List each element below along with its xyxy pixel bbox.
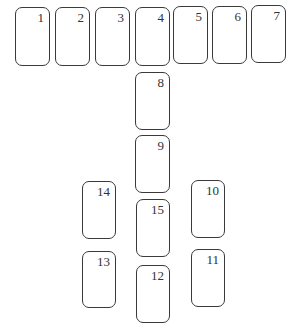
- card-10: 10: [191, 180, 225, 238]
- card-14: 14: [82, 181, 116, 239]
- card-number: 6: [235, 10, 242, 23]
- card-number: 9: [158, 139, 165, 152]
- card-1: 1: [15, 7, 50, 66]
- card-number: 13: [97, 255, 110, 268]
- card-7: 7: [251, 5, 286, 63]
- card-number: 10: [206, 184, 219, 197]
- card-number: 12: [151, 269, 164, 282]
- card-12: 12: [136, 265, 170, 323]
- card-3: 3: [95, 7, 130, 66]
- card-number: 8: [158, 76, 165, 89]
- card-2: 2: [55, 7, 90, 66]
- card-number: 14: [97, 185, 110, 198]
- card-number: 4: [158, 11, 165, 24]
- card-number: 7: [274, 9, 281, 22]
- card-9: 9: [135, 135, 170, 193]
- card-13: 13: [82, 251, 116, 308]
- card-number: 2: [78, 11, 85, 24]
- card-5: 5: [173, 6, 208, 64]
- card-number: 1: [38, 11, 45, 24]
- card-4: 4: [135, 7, 170, 66]
- card-number: 5: [196, 10, 203, 23]
- card-8: 8: [135, 72, 170, 130]
- card-number: 3: [118, 11, 125, 24]
- card-number: 11: [206, 253, 219, 266]
- card-11: 11: [191, 249, 225, 307]
- card-6: 6: [212, 6, 247, 64]
- card-15: 15: [136, 199, 170, 257]
- card-number: 15: [151, 203, 164, 216]
